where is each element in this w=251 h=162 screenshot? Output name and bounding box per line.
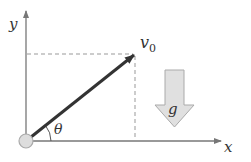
velocity-label-subscript: 0 bbox=[149, 42, 156, 55]
x-axis-label: x bbox=[224, 138, 233, 156]
gravity-label: g bbox=[168, 100, 178, 118]
gravity-arrow-icon bbox=[155, 70, 194, 127]
angle-arc bbox=[46, 126, 52, 142]
velocity-vector-arrow bbox=[26, 55, 134, 141]
projectile-diagram: y x v0 θ g bbox=[0, 0, 251, 162]
y-axis-label: y bbox=[8, 15, 18, 33]
velocity-label-main: v bbox=[140, 33, 149, 52]
velocity-label: v0 bbox=[140, 33, 156, 55]
angle-label: θ bbox=[54, 121, 63, 137]
origin-point bbox=[19, 134, 33, 148]
